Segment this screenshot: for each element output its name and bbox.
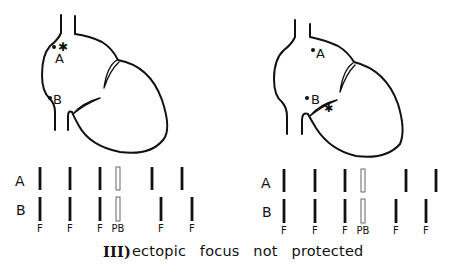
site-B-label-right: B [311,92,320,107]
caption-numeral: III) [103,243,131,260]
site-B-dot-left [48,96,52,100]
heart-left-ventricle-outline [68,16,167,153]
blocked-impulse-bar-left-row_B [116,197,120,221]
impulse-bar-right-row_B [283,199,286,223]
heart-left-valve-lower [73,98,100,114]
impulse-bar-left-row_B [99,197,102,221]
beat-label-left: F [37,223,43,234]
beat-label-right: PB [357,225,370,236]
heart-right-atrial-wall [274,20,295,134]
blocked-impulse-bar-right-row_A [361,169,365,192]
impulse-bar-right-row_A [344,169,347,192]
impulse-bar-right-row_B [395,199,398,223]
site-B-dot-right [305,96,309,100]
blocked-impulse-bar-right-row_B [361,199,365,223]
beat-label-right: F [393,225,399,236]
site-A-label-left: A [55,51,64,66]
caption-text: ectopic focus not protected [132,243,363,259]
beat-label-right: F [423,225,429,236]
impulse-bar-right-row_B [425,199,428,223]
impulse-bar-left-row_A [39,167,42,190]
site-A-dot-left [52,45,56,49]
impulse-bar-left-row_B [191,197,194,221]
rhythm-strips: FFFPBFFFFFPBFF [37,167,437,236]
beat-label-left: F [97,223,103,234]
impulse-bar-left-row_B [69,197,72,221]
beat-label-left: F [158,223,164,234]
impulse-bar-left-row_A [151,167,154,190]
heart-left-atrial-wall [42,15,61,130]
figure-canvas: ✱ A B A B ✱ A B A B FFFPBFFFFFPBFF [0,0,452,273]
beat-label-left: PB [112,223,125,234]
site-A-label-right: A [316,46,325,61]
beat-label-right: F [342,225,348,236]
heart-left [42,15,167,153]
impulse-bar-right-row_B [314,199,317,223]
impulse-bar-right-row_A [283,169,286,192]
impulse-bar-right-row_A [314,169,317,192]
row-label-A-right: A [261,175,271,191]
impulse-bar-left-row_B [39,197,42,221]
impulse-bar-left-row_A [99,167,102,190]
impulse-bar-left-row_A [181,167,184,190]
heart-right [274,20,403,157]
row-label-B-left: B [16,202,26,218]
impulse-bar-right-row_B [344,199,347,223]
site-B-label-left: B [53,92,62,107]
beat-label-left: F [189,223,195,234]
beat-label-right: F [312,225,318,236]
heart-right-valve-upper [340,63,355,92]
beat-label-left: F [67,223,73,234]
impulse-bar-right-row_A [435,169,438,192]
row-label-B-right: B [262,204,272,220]
row-label-A-left: A [15,173,25,189]
site-A-dot-right [311,48,315,52]
impulse-bar-left-row_A [69,167,72,190]
impulse-bar-left-row_B [160,197,163,221]
impulse-bar-right-row_A [405,169,408,192]
ectopic-focus-icon-right: ✱ [324,102,333,115]
beat-label-right: F [281,225,287,236]
heart-left-valve-upper [104,60,119,88]
heart-right-ventricle-outline [302,24,403,157]
blocked-impulse-bar-left-row_A [116,167,120,190]
